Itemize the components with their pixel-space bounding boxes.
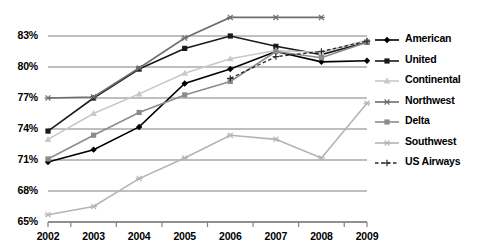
legend-swatch-icon (374, 135, 400, 147)
x-axis-tick-label: 2006 (210, 230, 250, 242)
y-axis-tick-label: 83% (4, 29, 38, 41)
legend-item-northwest[interactable]: Northwest (374, 90, 484, 111)
line-chart: 65%68%71%74%77%80%83% 200220032004200520… (0, 0, 485, 250)
legend-label: Delta (405, 114, 430, 126)
x-axis-tick-label: 2008 (301, 230, 341, 242)
legend-item-american[interactable]: American (374, 28, 484, 49)
y-axis-tick-label: 74% (4, 122, 38, 134)
x-axis-tick-label: 2009 (347, 230, 387, 242)
series-southwest (45, 101, 371, 218)
legend-label: United (405, 53, 436, 65)
legend-label: Continental (405, 73, 461, 85)
legend-label: American (405, 32, 451, 44)
x-axis-tick-label: 2004 (119, 230, 159, 242)
legend-label: Southwest (405, 135, 456, 147)
y-axis-tick-label: 65% (4, 215, 38, 227)
y-axis-tick-label: 68% (4, 184, 38, 196)
legend-label: US Airways (405, 155, 460, 167)
legend-swatch-icon (374, 94, 400, 106)
legend-item-continental[interactable]: Continental (374, 69, 484, 90)
chart-legend: AmericanUnitedContinentalNorthwestDeltaS… (374, 28, 484, 172)
legend-swatch-icon (374, 53, 400, 65)
y-axis-tick-label: 77% (4, 91, 38, 103)
x-axis-tick-label: 2005 (165, 230, 205, 242)
y-axis-tick-label: 80% (4, 60, 38, 72)
x-axis-tick-label: 2007 (256, 230, 296, 242)
legend-item-united[interactable]: United (374, 49, 484, 70)
x-axis-tick-label: 2002 (28, 230, 68, 242)
legend-swatch-icon (374, 155, 400, 167)
series-northwest (45, 15, 325, 101)
legend-swatch-icon (374, 73, 400, 85)
y-axis-tick-label: 71% (4, 153, 38, 165)
legend-item-southwest[interactable]: Southwest (374, 131, 484, 152)
legend-label: Northwest (405, 94, 455, 106)
legend-item-delta[interactable]: Delta (374, 110, 484, 131)
legend-swatch-icon (374, 114, 400, 126)
legend-item-us-airways[interactable]: US Airways (374, 151, 484, 172)
x-axis-tick-label: 2003 (74, 230, 114, 242)
legend-swatch-icon (374, 32, 400, 44)
